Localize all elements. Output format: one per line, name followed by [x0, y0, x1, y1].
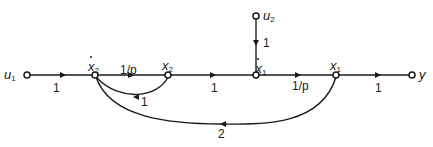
node-u1 [24, 72, 30, 78]
node-u2 [253, 13, 259, 19]
gain-label-x1dot-x1: 1/p [292, 80, 309, 92]
node-label-x2: x2 [162, 59, 173, 74]
edge-x2-x2dot-feedback [97, 77, 168, 94]
gain-label-x2-x1dot: 1 [211, 82, 218, 94]
node-label-y: y [419, 68, 426, 81]
node-y [409, 72, 415, 78]
gain-label-u2-x1dot: 1 [263, 37, 270, 49]
arrow-icon [210, 72, 216, 78]
node-label-x1: x1 [330, 59, 341, 74]
signal-flow-graph [0, 0, 433, 147]
gain-label-x1-y: 1 [375, 82, 382, 94]
arrow-icon [295, 72, 301, 78]
node-label-u2: u2 [263, 9, 275, 24]
gain-label-x2-x2dot: 1 [141, 96, 148, 108]
node-label-x2dot: x2 [88, 59, 99, 74]
node-label-x1dot: x1 [255, 61, 266, 76]
gain-label-u1-x2dot: 1 [53, 82, 60, 94]
arrow-icon [60, 72, 66, 78]
arrow-icon [375, 72, 381, 78]
node-label-u1: u1 [4, 68, 16, 83]
gain-label-x1-x2dot: 2 [218, 128, 225, 140]
arrow-icon [253, 40, 259, 46]
gain-label-x2dot-x2: 1/p [120, 64, 137, 76]
